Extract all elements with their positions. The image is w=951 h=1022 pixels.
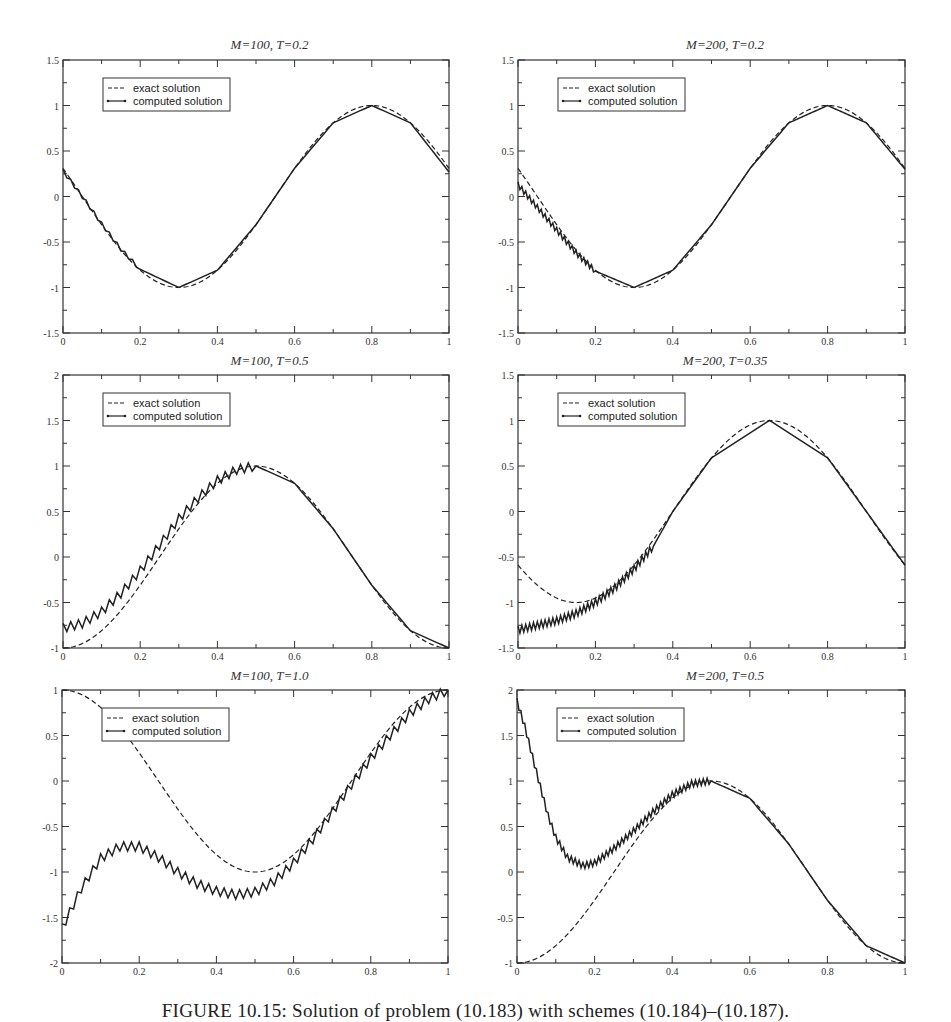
legend-exact-label: exact solution	[588, 397, 655, 409]
y-tick-label: 1	[54, 101, 59, 112]
plot-4: 00.20.40.60.81-2-1.5-1-0.500.51exact sol…	[42, 685, 450, 977]
legend: exact solutioncomputed solution	[558, 78, 685, 111]
x-tick-label: 1	[447, 651, 452, 662]
y-tick-label: -1	[506, 598, 514, 609]
x-tick-label: 1	[903, 651, 908, 662]
legend: exact solutioncomputed solution	[102, 708, 229, 741]
y-tick-label: -2	[50, 958, 58, 969]
x-tick-label: 0.6	[288, 651, 301, 662]
y-tick-label: -0.5	[42, 822, 58, 833]
legend-exact-label: exact solution	[133, 397, 200, 409]
computed-solution-line	[518, 421, 905, 633]
y-tick-label: -0.5	[43, 598, 59, 609]
x-tick-label: 0.8	[821, 966, 834, 977]
y-tick-label: 0	[508, 867, 513, 878]
y-tick-label: -1	[51, 643, 59, 654]
x-tick-label: 0.2	[133, 966, 146, 977]
y-tick-label: 0.5	[47, 146, 60, 157]
x-tick-label: 0	[61, 651, 66, 662]
x-tick-label: 0.4	[210, 966, 223, 977]
x-tick-label: 0	[60, 966, 65, 977]
x-tick-label: 0	[61, 336, 66, 347]
computed-solution-line	[518, 106, 905, 288]
exact-solution-line	[63, 106, 449, 288]
x-tick-label: 0.8	[365, 966, 378, 977]
y-tick-label: -1	[506, 283, 514, 294]
x-tick-label: 0	[516, 651, 521, 662]
x-tick-label: 0.6	[744, 336, 757, 347]
y-tick-label: -1	[505, 958, 513, 969]
legend: exact solutioncomputed solution	[103, 393, 230, 426]
y-tick-label: -1	[50, 867, 58, 878]
y-tick-label: 1	[54, 461, 59, 472]
x-tick-label: 0.8	[366, 336, 379, 347]
legend-computed-label: computed solution	[132, 725, 221, 737]
legend-computed-label: computed solution	[587, 725, 676, 737]
x-tick-label: 0.8	[366, 651, 379, 662]
y-tick-label: -1.5	[498, 328, 514, 339]
x-tick-label: 0.2	[588, 966, 601, 977]
y-tick-label: 1.5	[501, 731, 514, 742]
x-tick-label: 1	[447, 336, 452, 347]
legend-exact-label: exact solution	[132, 712, 199, 724]
y-tick-label: -0.5	[497, 913, 513, 924]
plot-5: 00.20.40.60.81-1-0.500.511.52exact solut…	[497, 685, 907, 977]
y-tick-label: 0	[509, 192, 514, 203]
plot-2: 00.20.40.60.81-1-0.500.511.52exact solut…	[43, 370, 451, 662]
exact-solution-line	[517, 781, 905, 963]
x-tick-label: 0	[515, 966, 520, 977]
y-tick-label: 2	[54, 370, 59, 381]
plot-3: 00.20.40.60.81-1.5-1-0.500.511.5exact so…	[498, 370, 907, 662]
legend-exact-label: exact solution	[587, 712, 654, 724]
y-tick-label: 1.5	[47, 416, 60, 427]
y-tick-label: 1.5	[502, 55, 515, 66]
y-tick-label: 0.5	[502, 461, 515, 472]
y-tick-label: -0.5	[43, 237, 59, 248]
x-tick-label: 0.2	[134, 651, 147, 662]
y-tick-label: 0	[54, 552, 59, 563]
x-tick-label: 0.8	[821, 336, 834, 347]
legend-exact-label: exact solution	[588, 82, 655, 94]
x-tick-label: 1	[903, 336, 908, 347]
y-tick-label: -0.5	[498, 237, 514, 248]
exact-solution-line	[518, 106, 905, 288]
x-tick-label: 0.8	[821, 651, 834, 662]
x-tick-label: 0	[516, 336, 521, 347]
y-tick-label: 1.5	[502, 370, 515, 381]
y-tick-label: -1.5	[42, 913, 58, 924]
y-tick-label: 1	[508, 776, 513, 787]
legend: exact solutioncomputed solution	[103, 78, 230, 111]
legend-computed-label: computed solution	[588, 410, 677, 422]
x-tick-label: 1	[903, 966, 908, 977]
y-tick-label: 2	[508, 685, 513, 696]
legend-computed-label: computed solution	[133, 410, 222, 422]
computed-solution-line	[63, 463, 449, 648]
y-tick-label: -0.5	[498, 552, 514, 563]
y-tick-label: 1.5	[47, 55, 60, 66]
x-tick-label: 0.4	[667, 336, 680, 347]
y-tick-label: 0.5	[47, 507, 60, 518]
x-tick-label: 0.2	[589, 336, 602, 347]
plot-0: 00.20.40.60.81-1.5-1-0.500.511.5exact so…	[43, 55, 451, 347]
y-tick-label: 0.5	[501, 822, 514, 833]
y-tick-label: -1	[51, 283, 59, 294]
y-tick-label: 1	[53, 685, 58, 696]
legend: exact solutioncomputed solution	[558, 393, 685, 426]
x-tick-label: 0.4	[211, 651, 224, 662]
x-tick-label: 0.6	[287, 966, 300, 977]
x-tick-label: 0.6	[744, 651, 757, 662]
x-tick-label: 0.2	[134, 336, 147, 347]
y-tick-label: 0	[54, 192, 59, 203]
x-tick-label: 1	[446, 966, 451, 977]
legend-computed-label: computed solution	[133, 95, 222, 107]
legend: exact solutioncomputed solution	[557, 708, 684, 741]
y-tick-label: 0.5	[46, 731, 59, 742]
y-tick-label: 1	[509, 101, 514, 112]
y-tick-label: 0.5	[502, 146, 515, 157]
y-tick-label: 0	[509, 507, 514, 518]
y-tick-label: 1	[509, 416, 514, 427]
x-tick-label: 0.4	[666, 966, 679, 977]
figure-caption: FIGURE 10.15: Solution of problem (10.18…	[0, 1000, 951, 1022]
x-tick-label: 0.4	[211, 336, 224, 347]
